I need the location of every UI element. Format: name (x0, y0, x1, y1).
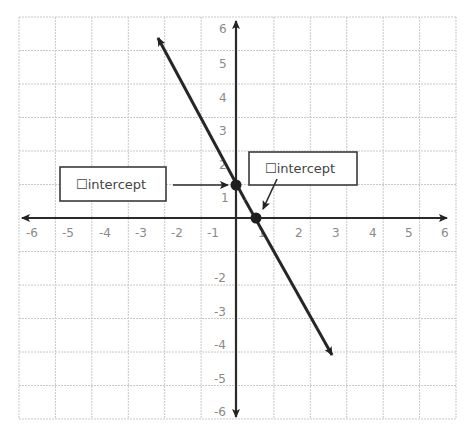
coordinate-plane: -6 -5 -4 -3 -2 -1 1 2 3 4 5 6 6 5 4 3 2 … (0, 0, 465, 433)
x-tick-label: -4 (99, 226, 111, 240)
y-tick-label: -2 (214, 271, 226, 285)
x-tick-label: 2 (295, 226, 303, 240)
y-tick-label: 4 (219, 91, 227, 105)
y-tick-label: 3 (219, 124, 227, 138)
y-tick-label: 1 (221, 191, 229, 205)
x-tick-labels: -6 -5 -4 -3 -2 -1 1 2 3 4 5 6 (26, 226, 449, 240)
x-intercept-point (251, 213, 262, 224)
x-tick-label: -5 (62, 226, 74, 240)
x-tick-label: -1 (207, 226, 219, 240)
callout-label: ☐intercept (76, 177, 146, 192)
x-tick-label: -2 (171, 226, 183, 240)
graphed-line-lower (245, 200, 332, 355)
y-tick-label: -3 (214, 305, 226, 319)
x-intercept-callout: ☐intercept (249, 152, 357, 209)
y-tick-label: -5 (214, 372, 226, 386)
x-tick-label: -3 (135, 226, 147, 240)
x-tick-label: 5 (405, 226, 413, 240)
x-tick-label: -6 (26, 226, 38, 240)
x-tick-label: 4 (369, 226, 377, 240)
y-tick-labels: 6 5 4 3 2 1 -2 -3 -4 -5 -6 (214, 22, 229, 419)
x-tick-label: 6 (441, 226, 449, 240)
y-tick-label: 5 (219, 57, 227, 71)
x-tick-label: 3 (332, 226, 340, 240)
y-tick-label: -6 (214, 405, 226, 419)
y-tick-label: 6 (219, 22, 227, 36)
y-intercept-point (231, 180, 242, 191)
y-tick-label: -4 (214, 338, 226, 352)
callout-label: ☐intercept (265, 161, 335, 176)
